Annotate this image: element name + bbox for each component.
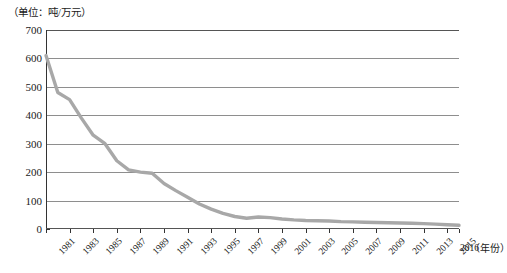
x-axis-tick-mark <box>459 229 460 233</box>
y-axis-tick-label: 100 <box>2 195 42 206</box>
x-axis-tick-label: 1999 <box>269 236 290 257</box>
x-axis-tick-mark <box>93 229 94 233</box>
y-axis-tick-label: 0 <box>2 224 42 235</box>
y-axis-tick-label: 200 <box>2 167 42 178</box>
x-axis-tick-mark <box>447 229 448 233</box>
x-axis-tick-mark <box>70 229 71 233</box>
x-axis-tick-label: 2011 <box>410 236 430 256</box>
x-axis-tick-label: 1995 <box>222 236 243 257</box>
chart-figure: （单位：吨/万元） 0100200300400500600700 1981198… <box>0 0 507 273</box>
x-axis-tick-mark <box>306 229 307 233</box>
x-axis-tick-mark <box>117 229 118 233</box>
x-axis-tick-label: 2001 <box>293 236 314 257</box>
x-axis-tick-label: 1981 <box>57 236 78 257</box>
x-axis-tick-label: 1987 <box>127 236 148 257</box>
x-axis-labels: 1981198319851987198919911993199519971999… <box>46 234 476 268</box>
x-axis-tick-mark <box>258 229 259 233</box>
x-axis-tick-mark <box>353 229 354 233</box>
y-axis-tick-label: 600 <box>2 53 42 64</box>
x-axis-tick-label: 1983 <box>80 236 101 257</box>
x-axis-tick-mark <box>211 229 212 233</box>
y-axis-tick-label: 700 <box>2 25 42 36</box>
series-line-chart <box>46 30 459 229</box>
y-axis-tick-label: 300 <box>2 138 42 149</box>
x-axis-tick-mark <box>235 229 236 233</box>
y-axis-tick-label: 400 <box>2 110 42 121</box>
x-axis-tick-mark <box>400 229 401 233</box>
x-axis-tick-label: 2013 <box>434 236 455 257</box>
x-axis-tick-label: 2009 <box>387 236 408 257</box>
x-axis-tick-label: 1989 <box>151 236 172 257</box>
y-axis-labels: 0100200300400500600700 <box>0 30 42 229</box>
x-axis-tick-mark <box>140 229 141 233</box>
x-axis-tick-label: 2007 <box>363 236 384 257</box>
x-axis-tick-mark <box>376 229 377 233</box>
x-axis-tick-mark <box>424 229 425 233</box>
x-axis-tick-mark <box>188 229 189 233</box>
x-axis-tick-mark <box>329 229 330 233</box>
plot-area <box>46 30 459 229</box>
x-axis-tick-label: 2005 <box>340 236 361 257</box>
unit-caption: （单位：吨/万元） <box>8 6 91 19</box>
x-axis-tick-mark <box>46 229 47 233</box>
x-axis-tick-label: 1985 <box>104 236 125 257</box>
x-axis-tick-mark <box>282 229 283 233</box>
series-polyline <box>46 56 459 226</box>
y-axis-tick-label: 500 <box>2 81 42 92</box>
x-axis-title: （年份） <box>470 243 507 254</box>
x-axis-tick-label: 1993 <box>198 236 219 257</box>
x-axis-tick-mark <box>164 229 165 233</box>
x-axis-tick-label: 1997 <box>245 236 266 257</box>
x-axis-tick-label: 1991 <box>175 236 196 257</box>
x-axis-tick-label: 2003 <box>316 236 337 257</box>
